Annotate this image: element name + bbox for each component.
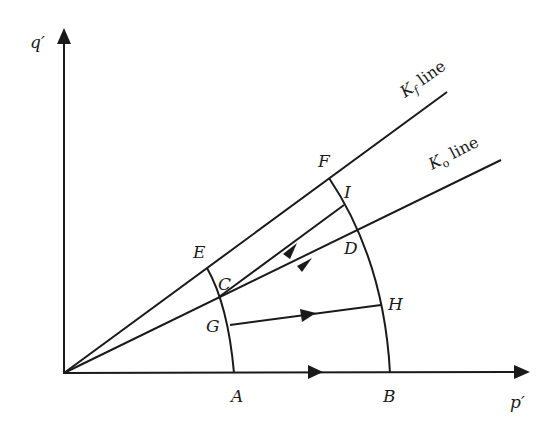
point-label-C: C bbox=[218, 274, 231, 294]
point-label-H: H bbox=[387, 294, 404, 314]
path-A-B-arrow-icon bbox=[308, 365, 323, 379]
point-label-G: G bbox=[206, 316, 220, 336]
path-G-H-arrow-icon bbox=[300, 309, 316, 322]
path-C-I bbox=[219, 205, 344, 297]
point-label-A: A bbox=[229, 386, 243, 406]
ko-line bbox=[64, 160, 501, 373]
p-axis-label: p′ bbox=[510, 392, 525, 412]
point-label-E: E bbox=[192, 242, 206, 262]
p-axis bbox=[63, 365, 530, 379]
kf-line-label: Kf line bbox=[396, 56, 451, 104]
p-axis-arrow-icon bbox=[514, 365, 530, 379]
path-C-D-arrow-icon bbox=[297, 258, 312, 272]
point-label-I: I bbox=[343, 182, 351, 202]
kf-line bbox=[64, 92, 447, 373]
svg-text:Ko line: Ko line bbox=[424, 132, 483, 176]
svg-text:Kf line: Kf line bbox=[396, 56, 451, 104]
stress-path-diagram: q′ p′ Kf line Ko line E F C I D G H A B bbox=[0, 0, 560, 424]
q-axis-label: q′ bbox=[30, 32, 45, 52]
point-label-D: D bbox=[343, 238, 358, 258]
point-label-B: B bbox=[382, 386, 396, 406]
outer-arc-FB bbox=[329, 178, 390, 373]
point-label-F: F bbox=[317, 151, 331, 171]
q-axis-arrow-icon bbox=[57, 28, 71, 44]
ko-line-label: Ko line bbox=[424, 132, 483, 176]
q-axis bbox=[57, 28, 71, 374]
